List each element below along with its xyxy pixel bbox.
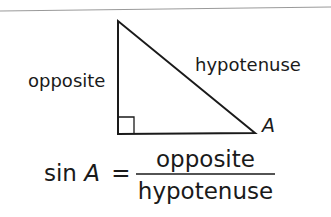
equals-sign: = <box>111 160 130 186</box>
sin-fn: sin <box>44 160 77 186</box>
formula-lhs: sin A = <box>44 162 131 185</box>
label-angle-a: A <box>262 116 275 135</box>
right-angle-marker <box>118 117 134 134</box>
sin-var: A <box>84 160 100 186</box>
label-opposite: opposite <box>28 72 105 90</box>
label-hypotenuse: hypotenuse <box>195 56 301 74</box>
top-rule <box>0 7 331 11</box>
right-triangle <box>118 21 255 134</box>
formula-denominator: hypotenuse <box>136 180 275 203</box>
formula-numerator: opposite <box>136 148 275 171</box>
